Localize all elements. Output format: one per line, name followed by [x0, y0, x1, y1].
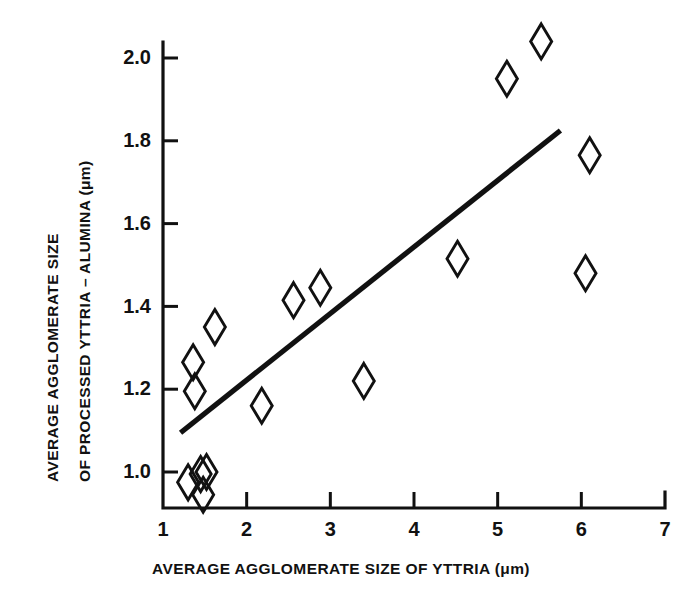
data-point-marker	[204, 310, 225, 345]
data-point-marker	[531, 24, 552, 59]
chart-figure: 1.01.21.41.61.82.0 1234567 AVERAGE AGGLO…	[0, 0, 682, 604]
axis-lines	[163, 42, 665, 508]
y-axis-title-line-1: AVERAGE AGGLOMERATE SIZE	[44, 233, 62, 482]
data-point-marker	[579, 138, 600, 173]
x-tick-label-2: 2	[241, 518, 252, 540]
data-point-marker	[496, 61, 517, 96]
y-axis-title: AVERAGE AGGLOMERATE SIZE OF PROCESSED YT…	[0, 0, 150, 530]
data-point-marker	[353, 363, 374, 398]
y-axis-ticks	[163, 58, 178, 472]
x-axis-title: AVERAGE AGGLOMERATE SIZE OF YTTRIA (μm)	[0, 560, 682, 578]
y-axis-title-line-2: OF PROCESSED YTTRIA – ALUMINA (μm)	[76, 160, 94, 482]
x-axis-ticks	[247, 492, 582, 508]
data-point-marker	[447, 241, 468, 276]
data-point-marker	[251, 388, 272, 423]
x-tick-label-5: 5	[492, 518, 503, 540]
x-tick-label-4: 4	[408, 518, 420, 540]
axes	[163, 42, 665, 508]
data-point-marker	[575, 256, 596, 291]
x-tick-label-1: 1	[157, 518, 168, 540]
x-tick-label-7: 7	[659, 518, 670, 540]
data-point-marker	[283, 283, 304, 318]
data-point-marker	[310, 270, 331, 305]
x-axis-tick-labels: 1234567	[157, 518, 670, 540]
x-tick-label-3: 3	[325, 518, 336, 540]
x-tick-label-6: 6	[576, 518, 587, 540]
